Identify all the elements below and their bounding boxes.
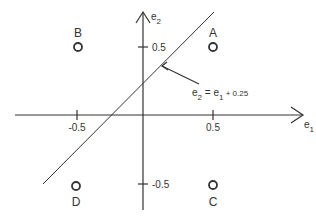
svg-text:D: D: [72, 195, 81, 209]
point-d-marker-icon: [72, 182, 80, 190]
point-c: C: [209, 181, 218, 209]
svg-text:A: A: [209, 26, 217, 40]
point-b-marker-icon: [74, 43, 82, 51]
equation-text: e2 = e1 + 0.25: [192, 87, 249, 102]
decision-line: [43, 12, 214, 184]
point-a-marker-icon: [209, 43, 217, 51]
x-tick-neg: -0.5: [68, 122, 86, 133]
y-tick-neg: -0.5: [152, 179, 170, 190]
point-a: A: [209, 26, 217, 51]
point-d: D: [72, 182, 81, 209]
point-b: B: [74, 26, 82, 51]
x-axis-label: e1: [304, 119, 315, 134]
svg-text:C: C: [209, 195, 218, 209]
diagram-canvas: -0.5 0.5 e1 0.5 -0.5 e2 e2 = e1 + 0.25 A…: [0, 0, 316, 218]
point-c-marker-icon: [209, 181, 217, 189]
x-axis: -0.5 0.5 e1: [15, 107, 315, 134]
y-tick-pos: 0.5: [152, 42, 166, 53]
equation-annotation: e2 = e1 + 0.25: [162, 62, 249, 102]
x-tick-pos: 0.5: [206, 122, 220, 133]
y-axis: 0.5 -0.5 e2: [136, 11, 170, 210]
y-axis-label: e2: [151, 11, 162, 26]
svg-text:B: B: [74, 26, 82, 40]
